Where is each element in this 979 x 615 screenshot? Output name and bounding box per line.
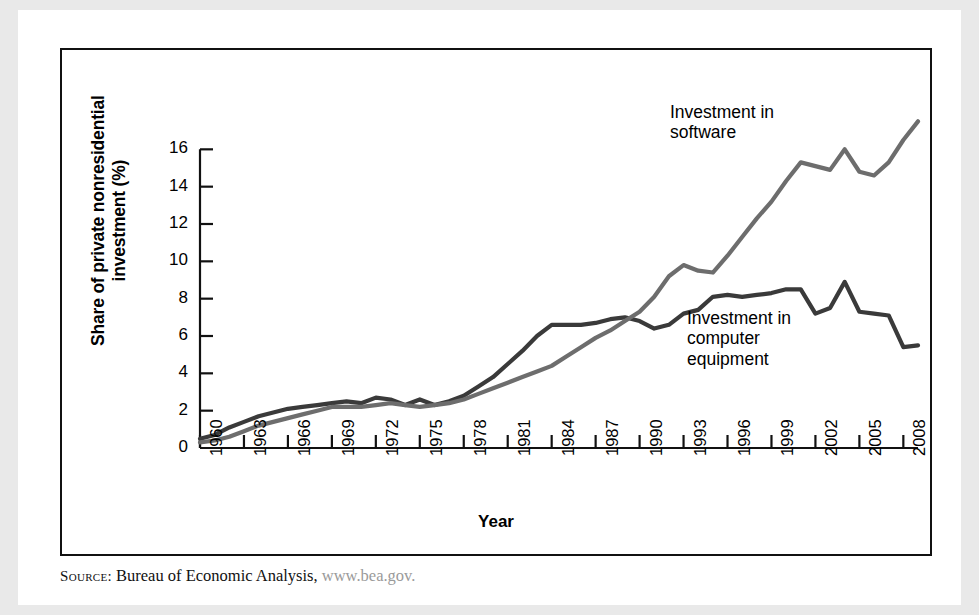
y-tick-8: 8 [154, 288, 188, 308]
annotation-software: Investment in software [670, 102, 774, 143]
y-tick-4: 4 [154, 362, 188, 382]
axis-ticks [200, 149, 903, 448]
x-tick-1990: 1990 [647, 419, 666, 456]
source-url[interactable]: www.bea.gov. [322, 566, 416, 585]
x-axis-title: Year [62, 512, 930, 532]
y-tick-0: 0 [154, 437, 188, 457]
chart-plot-area [62, 50, 930, 554]
x-tick-1981: 1981 [515, 419, 534, 456]
x-tick-1993: 1993 [691, 419, 710, 456]
y-tick-2: 2 [154, 400, 188, 420]
x-tick-1963: 1963 [251, 419, 270, 456]
x-tick-1966: 1966 [295, 419, 314, 456]
series-line-1 [200, 121, 918, 442]
x-tick-1996: 1996 [735, 419, 754, 456]
y-tick-16: 16 [154, 138, 188, 158]
x-tick-1987: 1987 [603, 419, 622, 456]
x-tick-2005: 2005 [866, 419, 885, 456]
y-tick-10: 10 [154, 250, 188, 270]
source-label: Source: [60, 568, 112, 584]
x-tick-1960: 1960 [207, 419, 226, 456]
x-tick-1972: 1972 [383, 419, 402, 456]
y-tick-6: 6 [154, 325, 188, 345]
x-tick-1975: 1975 [427, 419, 446, 456]
y-tick-12: 12 [154, 213, 188, 233]
annotation-computer: Investment in computer equipment [687, 308, 791, 369]
x-tick-2002: 2002 [822, 419, 841, 456]
axis-lines [200, 149, 918, 448]
x-tick-1999: 1999 [778, 419, 797, 456]
data-series [200, 121, 918, 442]
x-tick-1978: 1978 [471, 419, 490, 456]
source-note: Source: Bureau of Economic Analysis, www… [60, 566, 415, 586]
x-tick-1969: 1969 [339, 419, 358, 456]
x-tick-1984: 1984 [559, 419, 578, 456]
figure-frame: Share of private nonresidential investme… [60, 48, 932, 556]
x-tick-2008: 2008 [910, 419, 929, 456]
y-tick-14: 14 [154, 176, 188, 196]
source-text: Bureau of Economic Analysis, [112, 566, 322, 585]
page-canvas: Share of private nonresidential investme… [18, 10, 961, 605]
